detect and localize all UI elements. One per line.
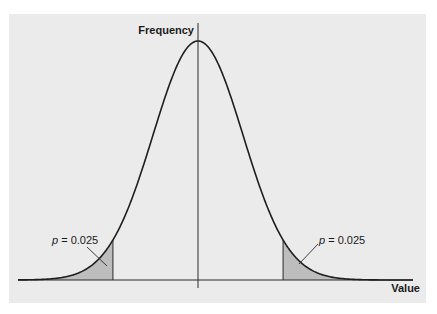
y-axis-label: Frequency bbox=[138, 24, 195, 36]
right-leader-line bbox=[299, 244, 318, 264]
right-p-label: p = 0.025 bbox=[318, 234, 365, 246]
normal-distribution-chart: Frequency Value p = 0.025 p = 0.025 bbox=[0, 0, 437, 314]
left-p-label: p = 0.025 bbox=[51, 234, 98, 246]
x-axis-label: Value bbox=[391, 282, 420, 294]
